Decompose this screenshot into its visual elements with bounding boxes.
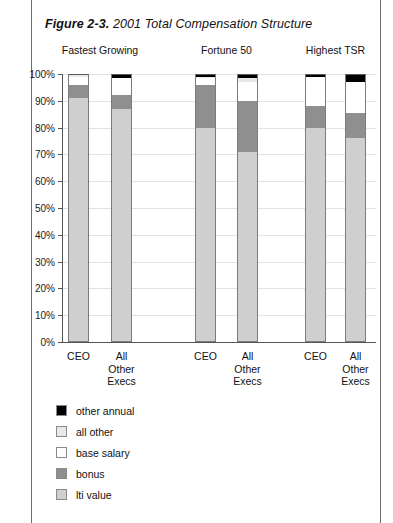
y-tick-mark (58, 101, 63, 102)
bar-segment-other-annual (195, 74, 216, 77)
bar-segment-bonus (305, 106, 326, 127)
legend-swatch-bonus (56, 468, 67, 479)
y-tick-label-0: 0% (21, 337, 55, 348)
bar-segment-other-annual (305, 74, 326, 77)
y-tick-label-90: 90% (21, 95, 55, 106)
x-axis-label-2: AllOtherExecs (92, 350, 152, 388)
gridline-20 (62, 288, 376, 289)
bar-segment-lti-value (195, 128, 216, 342)
y-tick-mark (58, 128, 63, 129)
x-axis-line (62, 342, 376, 343)
bar-1[interactable] (68, 74, 89, 342)
bar-segment-lti-value (345, 138, 366, 342)
legend-swatch-all-other (56, 426, 67, 437)
y-tick-label-100: 100% (21, 69, 55, 80)
bar-segment-base-salary (68, 77, 89, 85)
legend-item-lti-value[interactable]: lti value (56, 484, 134, 505)
bar-segment-bonus (345, 113, 366, 138)
y-tick-mark (58, 181, 63, 182)
x-axis-label-4: AllOtherExecs (218, 350, 278, 388)
bar-6[interactable] (345, 74, 366, 342)
bar-segment-base-salary (345, 82, 366, 113)
bar-segment-other-annual (237, 74, 258, 78)
legend-item-all-other[interactable]: all other (56, 421, 134, 442)
y-tick-mark (58, 288, 63, 289)
chart-legend: other annualall otherbase salarybonuslti… (56, 400, 134, 505)
legend-swatch-other-annual (56, 405, 67, 416)
gridline-30 (62, 262, 376, 263)
bar-segment-all-other (68, 75, 89, 76)
y-tick-mark (58, 74, 63, 75)
y-tick-mark (58, 315, 63, 316)
legend-label: other annual (76, 405, 134, 417)
gridline-80 (62, 128, 376, 129)
bar-5[interactable] (305, 74, 326, 342)
bar-segment-base-salary (237, 82, 258, 101)
bar-segment-lti-value (237, 152, 258, 342)
y-tick-label-70: 70% (21, 149, 55, 160)
bar-segment-lti-value (305, 128, 326, 342)
figure-page: Figure 2-3. 2001 Total Compensation Stru… (0, 0, 393, 523)
bar-segment-bonus (195, 85, 216, 128)
legend-item-bonus[interactable]: bonus (56, 463, 134, 484)
bar-segment-lti-value (111, 109, 132, 342)
bar-segment-all-other (195, 77, 216, 78)
gridline-90 (62, 101, 376, 102)
bar-segment-base-salary (305, 77, 326, 106)
legend-label: all other (76, 426, 113, 438)
bar-segment-bonus (68, 85, 89, 98)
y-tick-mark (58, 262, 63, 263)
y-tick-mark (58, 235, 63, 236)
y-tick-label-30: 30% (21, 256, 55, 267)
bar-segment-other-annual (111, 74, 132, 78)
y-tick-label-20: 20% (21, 283, 55, 294)
gridline-10 (62, 315, 376, 316)
gridline-100 (62, 74, 376, 75)
bar-4[interactable] (237, 74, 258, 342)
y-tick-label-60: 60% (21, 176, 55, 187)
y-tick-mark (58, 154, 63, 155)
legend-swatch-lti-value (56, 489, 67, 500)
bar-2[interactable] (111, 74, 132, 342)
legend-item-other-annual[interactable]: other annual (56, 400, 134, 421)
legend-label: bonus (76, 468, 105, 480)
legend-label: base salary (76, 447, 130, 459)
bar-segment-bonus (237, 101, 258, 152)
bar-segment-other-annual (68, 74, 89, 75)
bar-segment-all-other (237, 78, 258, 82)
bar-3[interactable] (195, 74, 216, 342)
y-tick-label-10: 10% (21, 310, 55, 321)
bar-segment-base-salary (111, 78, 132, 95)
y-tick-label-40: 40% (21, 229, 55, 240)
bar-segment-lti-value (68, 98, 89, 342)
gridline-60 (62, 181, 376, 182)
bar-segment-base-salary (195, 78, 216, 85)
legend-label: lti value (76, 489, 112, 501)
y-tick-mark (58, 342, 63, 343)
legend-swatch-base-salary (56, 447, 67, 458)
gridline-50 (62, 208, 376, 209)
y-tick-label-80: 80% (21, 122, 55, 133)
bar-segment-other-annual (345, 74, 366, 82)
bar-segment-bonus (111, 95, 132, 108)
gridline-40 (62, 235, 376, 236)
y-tick-label-50: 50% (21, 203, 55, 214)
legend-item-base-salary[interactable]: base salary (56, 442, 134, 463)
gridline-70 (62, 154, 376, 155)
y-tick-mark (58, 208, 63, 209)
x-axis-label-6: AllOtherExecs (326, 350, 386, 388)
